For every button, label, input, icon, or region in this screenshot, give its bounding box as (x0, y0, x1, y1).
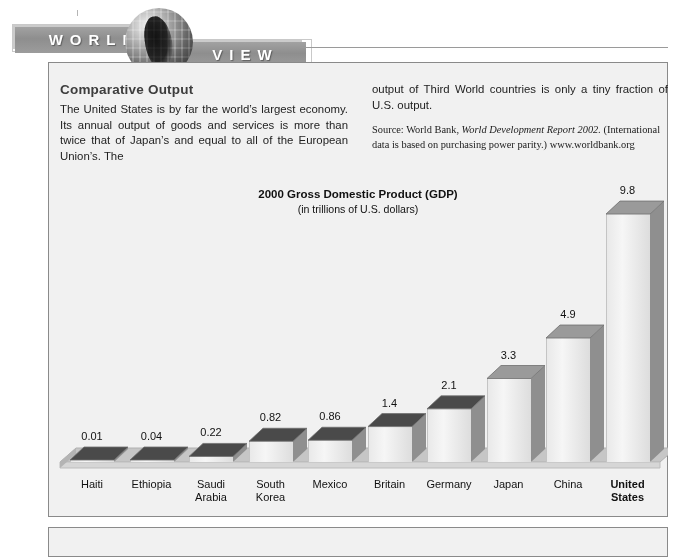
chart-bar-top-face (308, 160, 368, 517)
source-citation: Source: World Bank, World Development Re… (372, 123, 668, 151)
article-column-right: output of Third World countries is only … (372, 82, 668, 152)
chart-bar-label-line: Saudi (179, 478, 243, 491)
chart-bar-top-face (70, 160, 130, 517)
chart-bar-top-face (368, 160, 428, 517)
chart-bar-top-face (487, 160, 547, 517)
chart-bar: 9.8UnitedStates (606, 160, 650, 517)
banner-horizontal-rule (300, 47, 668, 48)
source-prefix: Source: World Bank, (372, 124, 462, 135)
chart-bar-value: 0.04 (130, 430, 174, 442)
chart-bar-label: Britain (358, 478, 422, 491)
chart-bar: 0.22SaudiArabia (189, 160, 233, 517)
chart-bar-label: UnitedStates (596, 478, 660, 504)
gdp-bar-chart: 2000 Gross Domestic Product (GDP) (in tr… (48, 160, 668, 517)
chart-plot-area: 0.01Haiti0.04Ethiopia0.22SaudiArabia0.82… (48, 160, 668, 517)
chart-bar-value: 0.82 (249, 411, 293, 423)
article-paragraph-left: The United States is by far the world’s … (60, 102, 348, 165)
article-paragraph-right: output of Third World countries is only … (372, 82, 668, 113)
chart-bar-label: Mexico (298, 478, 362, 491)
lower-panel (48, 527, 668, 557)
chart-bar: 0.04Ethiopia (130, 160, 174, 517)
chart-bar-value: 3.3 (487, 349, 531, 361)
chart-bar-label-line: Britain (358, 478, 422, 491)
chart-bar: 3.3Japan (487, 160, 531, 517)
chart-bar-top-face (189, 160, 249, 517)
chart-bar-label: Ethiopia (120, 478, 184, 491)
article-text: Comparative Output The United States is … (60, 82, 660, 160)
chart-bar-label-line: United (596, 478, 660, 491)
chart-bar-label-line: Arabia (179, 491, 243, 504)
page-title: Comparative Output (60, 82, 348, 97)
chart-bar-value: 9.8 (606, 184, 650, 196)
chart-bar-top-face (606, 160, 666, 517)
chart-bar-top-face (427, 160, 487, 517)
chart-bar-value: 0.86 (308, 410, 352, 422)
chart-bar-value: 2.1 (427, 379, 471, 391)
chart-bar-top-face (130, 160, 190, 517)
chart-bar-label: SouthKorea (239, 478, 303, 504)
chart-bar-label-line: Germany (417, 478, 481, 491)
chart-bar-label-line: Korea (239, 491, 303, 504)
chart-bar-label: Haiti (60, 478, 124, 491)
chart-bar-label-line: Japan (477, 478, 541, 491)
chart-bar: 2.1Germany (427, 160, 471, 517)
chart-bar-label-line: States (596, 491, 660, 504)
chart-bar-label: Japan (477, 478, 541, 491)
banner-tick-mark (77, 10, 78, 16)
chart-bar-label: China (536, 478, 600, 491)
chart-bar: 4.9China (546, 160, 590, 517)
chart-bar-top-face (546, 160, 606, 517)
chart-bar-value: 4.9 (546, 308, 590, 320)
chart-bar-label-line: Haiti (60, 478, 124, 491)
chart-bar-label-line: South (239, 478, 303, 491)
chart-bar-label: SaudiArabia (179, 478, 243, 504)
chart-bar: 1.4Britain (368, 160, 412, 517)
chart-bar-label: Germany (417, 478, 481, 491)
chart-bar-value: 0.22 (189, 426, 233, 438)
chart-bar-value: 0.01 (70, 430, 114, 442)
chart-bar-top-face (249, 160, 309, 517)
chart-bar: 0.86Mexico (308, 160, 352, 517)
chart-bar: 0.82SouthKorea (249, 160, 293, 517)
chart-bar-label-line: Mexico (298, 478, 362, 491)
source-report-title: World Development Report 2002. (462, 124, 601, 135)
article-column-left: Comparative Output The United States is … (60, 82, 348, 165)
chart-bar: 0.01Haiti (70, 160, 114, 517)
chart-bar-label-line: Ethiopia (120, 478, 184, 491)
chart-bar-value: 1.4 (368, 397, 412, 409)
chart-bar-label-line: China (536, 478, 600, 491)
